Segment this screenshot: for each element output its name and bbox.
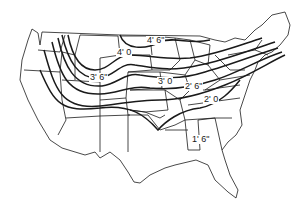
contour-label-1-6: 1' 6"	[191, 135, 210, 144]
contour-label-2-0: 2' 0	[203, 95, 219, 104]
contour-label-4-0: 4' 0	[116, 48, 132, 57]
contour-label-2-6: 2' 6"	[184, 82, 203, 91]
contour-label-3-6: 3' 6"	[89, 73, 108, 82]
contour-label-4-6: 4' 6"	[146, 36, 165, 45]
frost-depth-map: 4' 6" 4' 0 3' 6" 3' 0 2' 6" 2' 0 1' 6"	[0, 0, 300, 203]
us-map-outline	[0, 0, 300, 203]
contour-label-3-0: 3' 0	[157, 77, 173, 86]
